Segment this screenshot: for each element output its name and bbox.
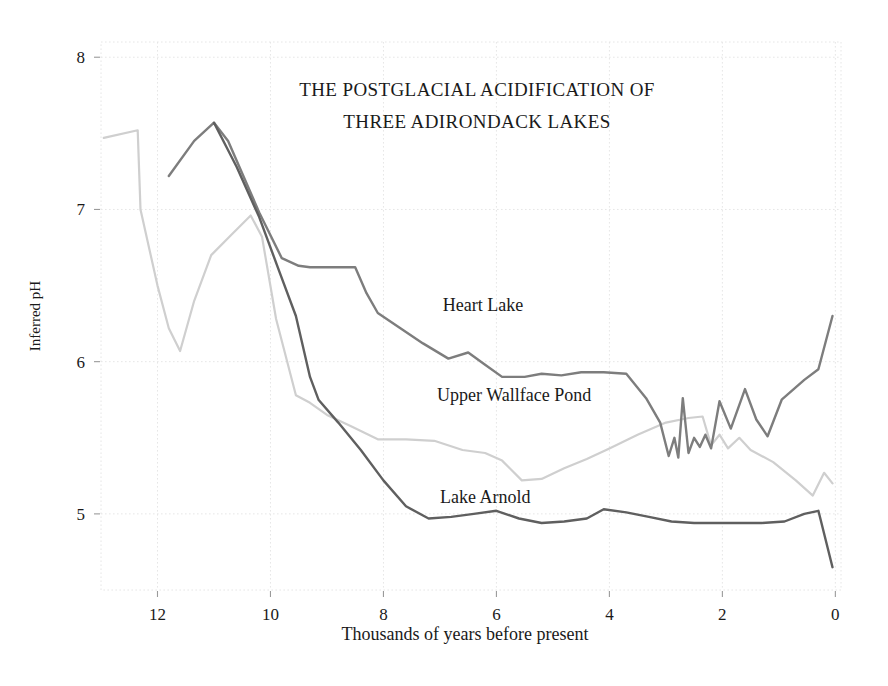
series-annotations: Heart LakeUpper Wallface PondLake Arnold [437, 295, 591, 507]
x-tick-label: 0 [831, 605, 840, 624]
x-tick-label: 6 [492, 605, 501, 624]
x-axis-tick-labels: 121086420 [149, 605, 840, 624]
line-chart-svg: 5678 121086420 Inferred pH Thousands of … [0, 0, 888, 686]
y-axis-tick-labels: 5678 [77, 48, 86, 524]
series-line-heart-lake [169, 123, 833, 458]
chart-title-line-2: THREE ADIRONDACK LAKES [343, 111, 610, 132]
x-tick-label: 4 [605, 605, 614, 624]
y-tick-label: 6 [77, 353, 86, 372]
chart-figure: 5678 121086420 Inferred pH Thousands of … [0, 0, 888, 686]
series-label-lake-arnold: Lake Arnold [440, 487, 530, 507]
chart-title-line-1: THE POSTGLACIAL ACIDIFICATION OF [299, 79, 655, 100]
y-tick-label: 7 [77, 200, 86, 219]
x-tick-label: 12 [149, 605, 166, 624]
y-tick-label: 5 [77, 505, 86, 524]
x-tick-label: 10 [262, 605, 279, 624]
x-axis-title: Thousands of years before present [342, 624, 589, 644]
y-axis-title: Inferred pH [27, 281, 43, 352]
series-label-upper-wallface-pond: Upper Wallface Pond [437, 385, 591, 405]
series-label-heart-lake: Heart Lake [443, 295, 523, 315]
y-tick-label: 8 [77, 48, 86, 67]
x-tick-label: 2 [718, 605, 727, 624]
x-tick-label: 8 [379, 605, 388, 624]
